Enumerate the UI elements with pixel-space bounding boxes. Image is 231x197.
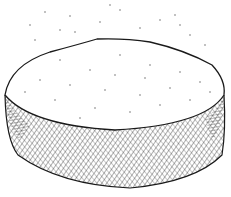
cake-top xyxy=(5,39,224,130)
cake-illustration xyxy=(0,0,231,197)
